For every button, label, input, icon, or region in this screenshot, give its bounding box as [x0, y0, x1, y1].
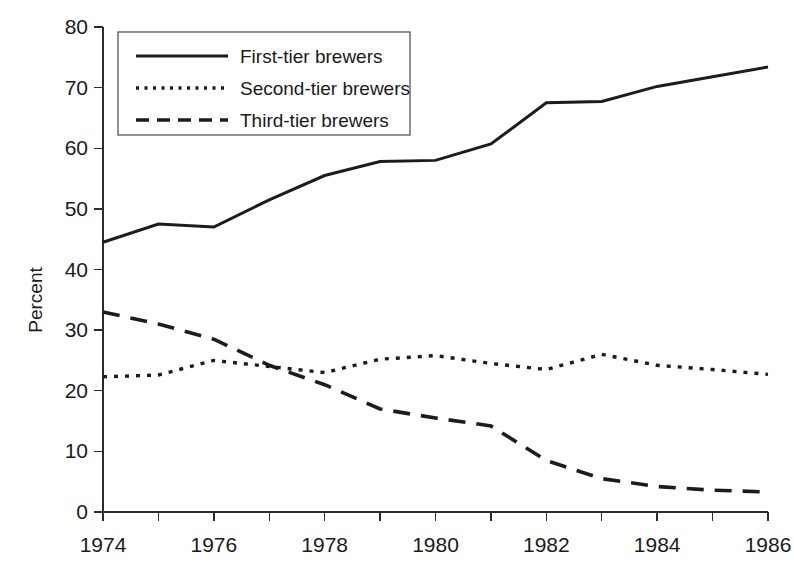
- legend-label-3: Third-tier brewers: [240, 110, 389, 131]
- y-axis-tick-label: 30: [65, 318, 88, 341]
- legend-label-1: First-tier brewers: [240, 46, 383, 67]
- y-axis-tick-label: 50: [65, 197, 88, 220]
- x-axis-tick-label: 1980: [412, 533, 459, 556]
- y-axis-tick-label: 80: [65, 15, 88, 38]
- legend-label-2: Second-tier brewers: [240, 78, 410, 99]
- x-axis-tick-label: 1982: [523, 533, 570, 556]
- y-axis-tick-label: 20: [65, 379, 88, 402]
- x-axis-tick-label: 1974: [80, 533, 127, 556]
- y-axis-tick-label: 60: [65, 136, 88, 159]
- series-line-2: [103, 354, 768, 376]
- chart-container: 01020304050607080 1974197619781980198219…: [0, 0, 794, 582]
- series-line-3: [103, 312, 768, 492]
- chart-legend: First-tier brewersSecond-tier brewersThi…: [118, 32, 410, 135]
- x-axis-tick-label: 1978: [301, 533, 348, 556]
- x-axis-tick-label: 1976: [190, 533, 237, 556]
- y-axis-tick-label: 70: [65, 76, 88, 99]
- y-axis: 01020304050607080: [65, 15, 103, 523]
- line-chart: 01020304050607080 1974197619781980198219…: [0, 0, 794, 582]
- x-axis-tick-label: 1986: [745, 533, 792, 556]
- y-axis-tick-label: 10: [65, 439, 88, 462]
- y-axis-tick-label: 0: [76, 500, 88, 523]
- y-axis-title: Percent: [25, 267, 46, 333]
- x-axis: 1974197619781980198219841986: [80, 512, 792, 556]
- y-axis-tick-label: 40: [65, 258, 88, 281]
- x-axis-tick-label: 1984: [634, 533, 681, 556]
